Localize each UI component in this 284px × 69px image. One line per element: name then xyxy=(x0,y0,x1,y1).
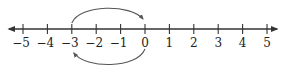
tick-label: −5 xyxy=(12,36,30,50)
tick-label: 1 xyxy=(166,36,174,50)
tick-label: 3 xyxy=(214,36,222,50)
tick-label: 5 xyxy=(263,36,271,50)
tick-label: −2 xyxy=(85,36,103,50)
tick-label: −4 xyxy=(37,36,55,50)
tick-label: 0 xyxy=(141,36,149,50)
top-arc xyxy=(72,8,143,23)
bottom-arc xyxy=(74,49,145,65)
tick-label: −1 xyxy=(110,36,128,50)
tick-label: −3 xyxy=(61,36,79,50)
number-line: −5−4−3−2−1012345 xyxy=(0,0,284,69)
tick-label: 2 xyxy=(190,36,198,50)
tick-label: 4 xyxy=(239,36,247,50)
